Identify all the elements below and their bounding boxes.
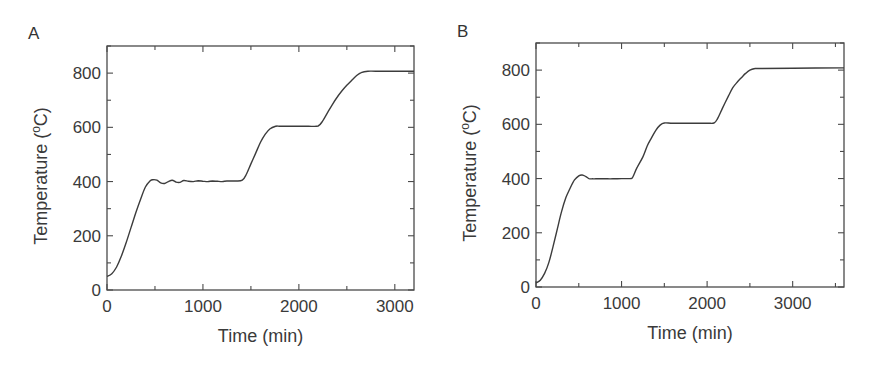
x-tick-label: 3000 bbox=[376, 297, 414, 316]
plot-frame bbox=[536, 43, 844, 287]
y-tick-label: 600 bbox=[73, 118, 101, 137]
x-tick-label: 2000 bbox=[280, 297, 318, 316]
plot-frame bbox=[107, 46, 414, 290]
x-tick-label: 1000 bbox=[603, 294, 641, 313]
y-tick-label: 400 bbox=[502, 170, 530, 189]
temperature-line bbox=[107, 71, 414, 276]
chart-a: 01000200030000200400600800Time (min)Temp… bbox=[0, 0, 437, 369]
panel-b: B 01000200030000200400600800Time (min)Te… bbox=[437, 0, 874, 369]
y-tick-label: 600 bbox=[502, 115, 530, 134]
x-tick-label: 2000 bbox=[688, 294, 726, 313]
x-axis-label: Time (min) bbox=[647, 323, 732, 343]
y-tick-label: 0 bbox=[92, 281, 101, 300]
x-axis-label: Time (min) bbox=[218, 326, 303, 346]
y-axis-label: Temperature (oC) bbox=[458, 104, 480, 242]
y-axis-label: Temperature (oC) bbox=[29, 107, 51, 245]
x-tick-label: 1000 bbox=[184, 297, 222, 316]
panel-a: A 01000200030000200400600800Time (min)Te… bbox=[0, 0, 437, 369]
temperature-line bbox=[536, 68, 844, 283]
y-tick-label: 400 bbox=[73, 173, 101, 192]
y-tick-label: 200 bbox=[73, 227, 101, 246]
y-tick-label: 800 bbox=[502, 61, 530, 80]
chart-b: 01000200030000200400600800Time (min)Temp… bbox=[437, 0, 874, 369]
y-tick-label: 200 bbox=[502, 224, 530, 243]
y-tick-label: 800 bbox=[73, 64, 101, 83]
x-tick-label: 0 bbox=[531, 294, 540, 313]
x-tick-label: 0 bbox=[102, 297, 111, 316]
y-tick-label: 0 bbox=[521, 278, 530, 297]
x-tick-label: 3000 bbox=[774, 294, 812, 313]
